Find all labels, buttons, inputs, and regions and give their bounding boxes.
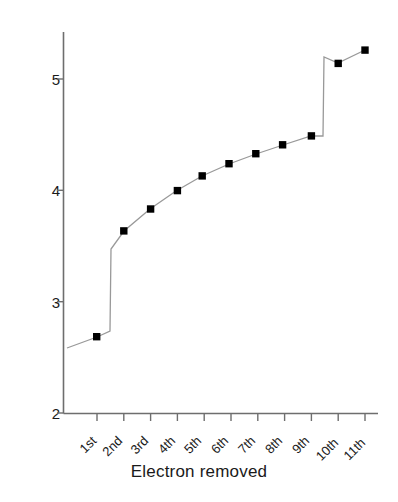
data-point-7th [252,150,259,157]
data-point-2nd [120,227,127,234]
data-point-8th [279,141,286,148]
x-tick-marks [97,414,365,422]
data-point-3rd [147,205,154,212]
data-point-4th [174,187,181,194]
data-point-1st [93,333,100,340]
y-tick-marks [57,79,64,413]
data-point-markers [93,46,369,340]
ionization-energy-chart: log10 ionization energy 5 4 3 2 1st 2nd … [0,0,398,502]
data-point-10th [335,60,342,67]
plot-area [0,0,398,502]
data-line [67,50,365,348]
data-point-11th [361,46,368,53]
x-axis-title: Electron removed [0,462,398,482]
data-point-6th [225,160,232,167]
data-point-9th [308,132,315,139]
data-point-5th [199,172,206,179]
